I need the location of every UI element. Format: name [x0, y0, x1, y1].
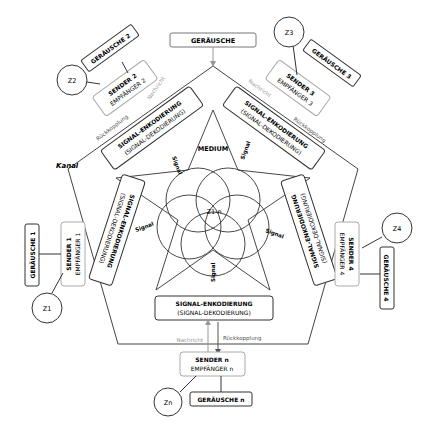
noise-box-4: GERÄUSCHE 4	[380, 247, 394, 309]
signal-label: Signal	[264, 227, 285, 240]
sender-box-4: SENDER 4 EMPFÄNGER 4	[335, 222, 359, 286]
noise-box-2: GERÄUSCHE 2	[81, 24, 139, 72]
sender-box-3: SENDER 3 EMPFÄNGER 3	[265, 59, 331, 116]
svg-text:(SIGNAL-DEKODIERUNG): (SIGNAL-DEKODIERUNG)	[177, 309, 251, 316]
sender-box-n: SENDER n EMPFÄNGER n	[180, 352, 245, 376]
svg-text:GERÄUSCHE 3: GERÄUSCHE 3	[311, 47, 353, 80]
svg-text:Z1: Z1	[43, 305, 52, 313]
noise-box-3: GERÄUSCHE 3	[303, 39, 361, 87]
svg-text:SENDER n: SENDER n	[195, 356, 229, 363]
svg-text:EMPFÄNGER 4: EMPFÄNGER 4	[339, 233, 346, 276]
encoding-box-bottom: SIGNAL-ENKODIERUNG (SIGNAL-DEKODIERUNG)	[155, 296, 273, 320]
communication-diagram: Kanal GERÄUSCHE MEDIUM Z1-n SIGNAL-ENKOD…	[0, 0, 426, 426]
sender-box-1: SENDER 1 EMPFÄNGER 1	[61, 222, 85, 286]
svg-text:GERÄUSCHE 4: GERÄUSCHE 4	[383, 254, 390, 301]
overlap-circles	[157, 168, 269, 276]
medium-label: MEDIUM	[198, 145, 228, 153]
svg-text:SENDER 1: SENDER 1	[65, 237, 72, 270]
svg-text:Z2: Z2	[68, 77, 77, 85]
center-label: Z1-n	[206, 208, 221, 216]
svg-text:GERÄUSCHE n: GERÄUSCHE n	[197, 396, 244, 403]
signal-label: Signal	[134, 221, 155, 234]
svg-text:Z3: Z3	[285, 29, 294, 37]
svg-text:EMPFÄNGER 1: EMPFÄNGER 1	[74, 233, 81, 276]
svg-text:SENDER 4: SENDER 4	[348, 237, 355, 270]
noise-box-1: GERÄUSCHE 1	[25, 224, 39, 286]
svg-text:SIGNAL-ENKODIERUNG: SIGNAL-ENKODIERUNG	[176, 300, 253, 307]
feedback-label: Rückkopplung	[223, 335, 262, 342]
svg-text:GERÄUSCHE 2: GERÄUSCHE 2	[89, 32, 131, 65]
svg-text:Z4: Z4	[393, 225, 402, 233]
svg-text:Zn: Zn	[164, 399, 173, 407]
encoding-box-right: SIGNAL-ENKODIERUNG (SIGNAL-DEKODIERUNG)	[281, 174, 338, 286]
noise-top-label: GERÄUSCHE	[191, 36, 235, 45]
signal-label: Signal	[239, 140, 252, 161]
signal-label: Signal	[210, 263, 217, 282]
svg-text:EMPFÄNGER n: EMPFÄNGER n	[191, 365, 234, 372]
channel-label: Kanal	[56, 162, 79, 170]
message-label: Nachricht	[177, 337, 204, 343]
svg-text:GERÄUSCHE 1: GERÄUSCHE 1	[29, 231, 36, 278]
signal-label: Signal	[170, 155, 183, 176]
